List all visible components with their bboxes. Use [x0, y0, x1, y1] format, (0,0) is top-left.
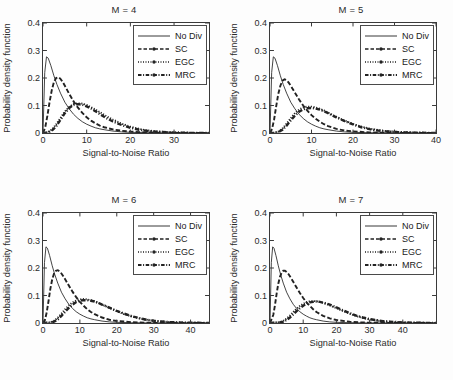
legend-label: MRC: [171, 260, 196, 270]
y-axis-label: Probability density function: [229, 23, 239, 132]
x-tick-label: 10: [75, 325, 85, 335]
legend-label: No Div: [398, 221, 429, 231]
legend-item[interactable]: SC: [364, 232, 429, 245]
panel-title: M = 5: [227, 4, 453, 15]
legend-line-swatch: [364, 43, 398, 55]
x-tick-label: 30: [149, 325, 159, 335]
y-axis-label: Probability density function: [229, 213, 239, 322]
x-axis-label: Signal-to-Noise Ratio: [310, 338, 397, 348]
legend-label: SC: [398, 44, 415, 54]
x-tick-label: 40: [186, 325, 196, 335]
plot-area: Probability density function Signal-to-N…: [269, 22, 437, 134]
y-tick-label: 0: [262, 318, 267, 328]
y-tick-label: 0.4: [254, 18, 267, 28]
y-tick-label: 0.3: [254, 236, 267, 246]
legend-line-swatch: [137, 246, 171, 258]
y-tick-label: 0.3: [27, 236, 40, 246]
y-tick-label: 0: [35, 318, 40, 328]
x-tick-label: 10: [298, 325, 308, 335]
legend-item[interactable]: EGC: [364, 245, 429, 258]
legend-item[interactable]: SC: [137, 42, 202, 55]
legend-label: EGC: [171, 57, 195, 67]
legend-item[interactable]: SC: [364, 42, 429, 55]
legend-label: EGC: [398, 57, 422, 67]
legend-item[interactable]: SC: [137, 232, 202, 245]
plot-area: Probability density function Signal-to-N…: [42, 22, 210, 134]
legend-item[interactable]: MRC: [137, 258, 202, 271]
legend-item[interactable]: No Div: [137, 29, 202, 42]
panel-title: M = 7: [227, 194, 453, 205]
x-tick-label: 20: [112, 325, 122, 335]
y-axis-label: Probability density function: [2, 23, 12, 132]
legend-label: EGC: [398, 247, 422, 257]
legend-line-swatch: [364, 233, 398, 245]
legend-line-swatch: [137, 233, 171, 245]
legend-line-swatch: [364, 246, 398, 258]
y-tick-label: 0.1: [254, 291, 267, 301]
y-tick-label: 0.3: [254, 46, 267, 56]
x-tick-label: 20: [331, 325, 341, 335]
legend-item[interactable]: MRC: [364, 68, 429, 81]
legend: No DivSCEGCMRC: [360, 25, 434, 85]
legend-label: MRC: [398, 260, 423, 270]
legend-label: No Div: [171, 221, 202, 231]
y-tick-label: 0.2: [254, 263, 267, 273]
x-tick-label: 0: [40, 135, 45, 145]
legend-line-swatch: [364, 69, 398, 81]
x-axis-label: Signal-to-Noise Ratio: [83, 338, 170, 348]
x-tick-label: 20: [348, 135, 358, 145]
y-axis-label: Probability density function: [2, 213, 12, 322]
y-tick-label: 0.1: [254, 101, 267, 111]
plot-area: Probability density function Signal-to-N…: [42, 212, 210, 324]
legend: No DivSCEGCMRC: [133, 215, 207, 275]
x-tick-label: 30: [365, 325, 375, 335]
legend-line-swatch: [137, 43, 171, 55]
legend-line-swatch: [137, 56, 171, 68]
legend-item[interactable]: EGC: [137, 245, 202, 258]
x-tick-label: 40: [398, 325, 408, 335]
x-tick-label: 0: [40, 325, 45, 335]
y-tick-label: 0.4: [27, 208, 40, 218]
y-tick-label: 0.1: [27, 101, 40, 111]
x-tick-label: 10: [82, 135, 92, 145]
x-axis-label: Signal-to-Noise Ratio: [310, 148, 397, 158]
panel-m6: M = 6 Probability density function Signa…: [0, 190, 226, 380]
y-tick-label: 0.2: [254, 73, 267, 83]
y-tick-label: 0.1: [27, 291, 40, 301]
legend-line-swatch: [364, 56, 398, 68]
legend-line-swatch: [137, 69, 171, 81]
y-tick-label: 0.2: [27, 263, 40, 273]
legend-line-swatch: [364, 220, 398, 232]
x-tick-label: 0: [267, 135, 272, 145]
panel-m4: M = 4 Probability density function Signa…: [0, 0, 226, 190]
legend-label: No Div: [171, 31, 202, 41]
panel-m7: M = 7 Probability density function Signa…: [227, 190, 453, 380]
x-tick-label: 30: [169, 135, 179, 145]
y-tick-label: 0: [262, 128, 267, 138]
legend-item[interactable]: EGC: [137, 55, 202, 68]
legend-line-swatch: [137, 220, 171, 232]
legend-item[interactable]: MRC: [137, 68, 202, 81]
legend-label: MRC: [398, 70, 423, 80]
legend-label: SC: [398, 234, 415, 244]
y-tick-label: 0.4: [254, 208, 267, 218]
legend-item[interactable]: No Div: [364, 29, 429, 42]
legend-item[interactable]: No Div: [364, 219, 429, 232]
legend-item[interactable]: MRC: [364, 258, 429, 271]
plot-area: Probability density function Signal-to-N…: [269, 212, 437, 324]
legend-item[interactable]: EGC: [364, 55, 429, 68]
x-tick-label: 0: [267, 325, 272, 335]
legend-line-swatch: [137, 259, 171, 271]
legend-label: MRC: [171, 70, 196, 80]
legend-label: SC: [171, 234, 188, 244]
legend: No DivSCEGCMRC: [360, 215, 434, 275]
figure-canvas: M = 4 Probability density function Signa…: [0, 0, 453, 380]
y-tick-label: 0.2: [27, 73, 40, 83]
panel-title: M = 6: [0, 194, 226, 205]
panel-m5: M = 5 Probability density function Signa…: [227, 0, 453, 190]
x-axis-label: Signal-to-Noise Ratio: [83, 148, 170, 158]
legend-label: SC: [171, 44, 188, 54]
legend-item[interactable]: No Div: [137, 219, 202, 232]
x-tick-label: 20: [125, 135, 135, 145]
legend-label: No Div: [398, 31, 429, 41]
